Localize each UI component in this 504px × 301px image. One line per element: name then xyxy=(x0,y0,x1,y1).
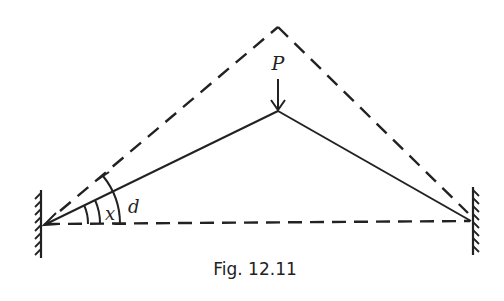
figure-caption: Fig. 12.11 xyxy=(213,259,297,279)
angle-d-label: d xyxy=(128,196,140,217)
load-label: P xyxy=(271,52,286,74)
angle-x-label: x xyxy=(105,203,115,224)
angle-x-arc xyxy=(84,205,88,224)
dashed-right-edge xyxy=(278,27,468,213)
dashed-left-edge xyxy=(60,27,278,211)
angle-x-arc-inner xyxy=(95,200,100,224)
figure-canvas: P x d Fig. 12.11 xyxy=(0,0,504,301)
right-wall-support xyxy=(473,187,479,255)
solid-left-strut xyxy=(44,111,278,225)
solid-right-strut xyxy=(278,111,471,221)
left-wall-support xyxy=(35,190,41,258)
